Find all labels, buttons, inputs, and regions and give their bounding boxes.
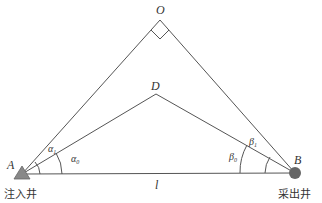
arc-beta0 (240, 145, 247, 173)
label-beta0: β0 (228, 151, 237, 163)
segment-DB (156, 94, 295, 173)
segment-OB (160, 20, 295, 173)
label-B: B (294, 153, 302, 167)
well-geometry-diagram: O D A B α1 α0 β0 β1 l 注入井 采出井 (0, 0, 322, 203)
label-beta1: β1 (248, 136, 257, 148)
arc-beta1 (265, 157, 270, 173)
label-l: l (155, 178, 159, 192)
label-D: D (150, 79, 160, 93)
injection-well-label: 注入井 (4, 187, 37, 201)
label-alpha0: α0 (71, 153, 79, 165)
segment-AO (22, 20, 160, 174)
production-well-circle-icon (289, 167, 301, 179)
production-well-label: 采出井 (278, 187, 311, 201)
label-O: O (156, 3, 165, 17)
label-alpha1: α1 (48, 143, 56, 155)
segment-AD (22, 94, 156, 174)
label-A: A (6, 158, 15, 172)
arc-alpha0 (56, 153, 62, 174)
segment-AB (22, 173, 295, 174)
right-angle-marker (151, 30, 169, 39)
